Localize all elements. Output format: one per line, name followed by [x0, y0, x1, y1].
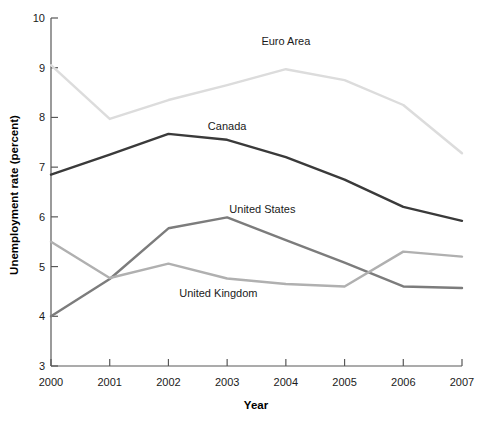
unemployment-rate-line-chart: 345678910 200020012002200320042005200620… — [0, 0, 488, 424]
y-axis-title: Unemployment rate (percent) — [8, 115, 20, 275]
x-axis-ticks: 20002001200220032004200520062007 — [39, 359, 474, 388]
y-axis-ticks: 345678910 — [33, 12, 58, 372]
x-tick-label: 2000 — [39, 376, 63, 388]
series-label-united-states: United States — [229, 203, 296, 215]
y-tick-label: 4 — [39, 310, 45, 322]
y-tick-label: 3 — [39, 360, 45, 372]
y-tick-label: 5 — [39, 261, 45, 273]
series-lines — [51, 65, 462, 316]
x-tick-label: 2007 — [450, 376, 474, 388]
series-line-united-kingdom — [51, 242, 462, 287]
x-tick-label: 2005 — [332, 376, 356, 388]
series-labels: Euro AreaCanadaUnited StatesUnited Kingd… — [179, 35, 311, 299]
x-tick-label: 2006 — [391, 376, 415, 388]
y-tick-label: 10 — [33, 12, 45, 24]
y-tick-label: 7 — [39, 161, 45, 173]
x-tick-label: 2004 — [274, 376, 298, 388]
y-tick-label: 8 — [39, 111, 45, 123]
series-label-euro-area: Euro Area — [261, 35, 311, 47]
y-tick-label: 6 — [39, 211, 45, 223]
chart-canvas: 345678910 200020012002200320042005200620… — [0, 0, 488, 424]
series-line-united-states — [51, 217, 462, 316]
series-label-canada: Canada — [208, 120, 247, 132]
x-tick-label: 2001 — [97, 376, 121, 388]
x-tick-label: 2002 — [156, 376, 180, 388]
series-label-united-kingdom: United Kingdom — [179, 287, 257, 299]
y-tick-label: 9 — [39, 62, 45, 74]
x-axis-title: Year — [244, 399, 269, 411]
series-line-euro-area — [51, 65, 462, 153]
x-tick-label: 2003 — [215, 376, 239, 388]
